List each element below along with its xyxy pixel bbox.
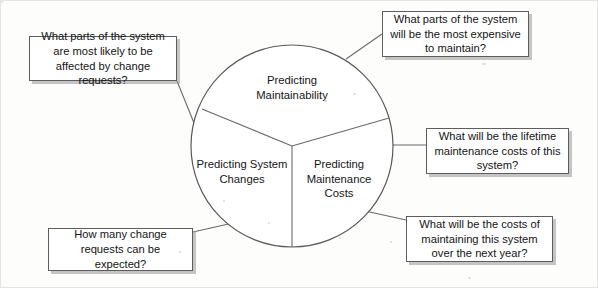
diagram-canvas: Predicting Maintainability Predicting Ma… — [0, 0, 598, 288]
scan-speck — [268, 222, 270, 224]
scan-speck — [390, 241, 392, 243]
callout-how-many-change-requests: How many change requests can be expected… — [48, 228, 193, 271]
scan-speck — [468, 277, 471, 279]
scan-speck — [339, 237, 341, 239]
callout-text: What will be the lifetime maintenance co… — [432, 129, 563, 173]
callout-text: What parts of the system will be the mos… — [388, 12, 523, 56]
scan-speck — [324, 100, 327, 102]
connector-affected-by-change-requests — [177, 81, 194, 123]
scan-speck — [482, 63, 486, 65]
callout-text: How many change requests can be expected… — [54, 227, 187, 271]
callout-text: What parts of the system are most likely… — [35, 29, 171, 88]
connector-how-many-change-requests — [193, 223, 233, 232]
callout-affected-by-change-requests: What parts of the system are most likely… — [29, 36, 177, 81]
connector-most-expensive-to-maintain — [346, 34, 382, 59]
scan-speck — [353, 93, 356, 95]
callout-text: What will be the costs of maintaining th… — [412, 217, 547, 261]
scan-speck — [223, 200, 225, 202]
callout-costs-next-year: What will be the costs of maintaining th… — [406, 216, 553, 262]
callout-most-expensive-to-maintain: What parts of the system will be the mos… — [382, 11, 529, 57]
scan-speck — [1, 1, 3, 3]
scan-speck — [179, 251, 181, 253]
callout-lifetime-maintenance-costs: What will be the lifetime maintenance co… — [426, 128, 569, 174]
